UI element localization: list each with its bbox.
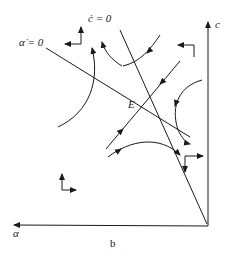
alpha-axis-label: α xyxy=(13,227,19,239)
stable-arm-lower xyxy=(106,105,143,149)
alpha-axis xyxy=(14,225,208,226)
trajectory-top-left xyxy=(102,42,122,66)
figure-caption: b xyxy=(110,237,116,249)
trajectory-right xyxy=(175,80,202,144)
direction-arrows-top-right xyxy=(178,45,194,57)
alpha-dot-isocline xyxy=(46,48,190,137)
trajectory-left xyxy=(58,48,95,127)
trajectory-bottom xyxy=(108,142,180,157)
c-dot-isocline xyxy=(120,30,207,224)
equilibrium-label: E xyxy=(128,98,135,110)
alpha-dot-isocline-label: α̇ = 0 xyxy=(19,36,43,48)
c-axis-label: c xyxy=(215,18,220,30)
direction-arrows-bottom-left xyxy=(62,174,76,190)
direction-arrows-bottom-right xyxy=(185,156,203,172)
direction-arrows-top-left xyxy=(65,27,81,44)
trajectory-top xyxy=(123,35,160,66)
c-dot-isocline-label: ċ = 0 xyxy=(88,12,111,24)
